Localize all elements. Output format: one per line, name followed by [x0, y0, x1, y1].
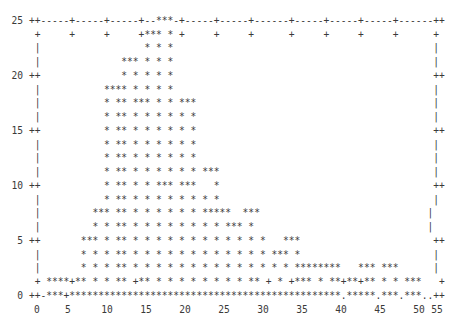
plot-line: | * * ** * * * * * * * * *** * | [0, 220, 445, 234]
plot-line: | * * * | [0, 41, 445, 55]
x-tick-label: 20 [179, 303, 191, 317]
plot-line-y5: 5 ++ *** * ** * * * * * * * * * * * * **… [0, 234, 445, 248]
x-tick-label: 30 [257, 303, 269, 317]
plot-line: | * ** * * * * * * | [0, 151, 445, 165]
plot-line: | * ** *** * * *** | [0, 96, 445, 110]
x-tick-label: 0 [34, 303, 40, 317]
x-tick-label: 50 [413, 303, 425, 317]
plot-canvas: 25 ++-----+-----+-----+--***-+-----+----… [0, 0, 445, 303]
x-tick-label: 45 [374, 303, 386, 317]
x-tick-label: 55 [431, 303, 443, 317]
plot-line-y25-top-border: 25 ++-----+-----+-----+--***-+-----+----… [0, 14, 445, 28]
x-axis-tick-labels: 0 5 10 15 20 25 30 35 40 45 50 55 [0, 303, 456, 317]
plot-line-y20: 20 ++ * * * * * ++ [0, 69, 445, 83]
x-tick-label: 35 [296, 303, 308, 317]
plot-line: + ****+** * * ** +** * * * * * * * * ** … [0, 275, 445, 289]
x-tick-label: 15 [140, 303, 152, 317]
plot-line: | **** * * * * | [0, 83, 445, 97]
x-tick-label: 10 [101, 303, 113, 317]
plot-line: | * ** * * * * * * *** | [0, 165, 445, 179]
plot-line: | *** ** * * * * * * ***** *** | [0, 206, 445, 220]
plot-line: | * ** * * * * * * | [0, 110, 445, 124]
x-tick-label: 40 [335, 303, 347, 317]
plot-line-y10: 10 ++ * ** * * *** *** * ++ [0, 179, 445, 193]
plot-line: | * ** * * * * * * * * | [0, 193, 445, 207]
plot-line: | *** * * * | [0, 55, 445, 69]
ascii-histogram-plot: 25 ++-----+-----+-----+--***-+-----+----… [0, 0, 456, 330]
plot-line: | * ** * * * * * * | [0, 138, 445, 152]
plot-line: + + + +*** * + + + + + + + + [0, 28, 445, 42]
plot-line: | * * * ** * * * * * * * * * * * * *** *… [0, 248, 445, 262]
x-tick-label: 25 [218, 303, 230, 317]
plot-line-y0-bottom-border: 0 ++-***+*******************************… [0, 289, 445, 303]
plot-line-blank [0, 0, 445, 14]
plot-line: | * * * ** * * * * * * * * * * * * * * *… [0, 261, 445, 275]
x-tick-label: 5 [65, 303, 71, 317]
plot-line-y15: 15 ++ * ** * * * * * * ++ [0, 124, 445, 138]
